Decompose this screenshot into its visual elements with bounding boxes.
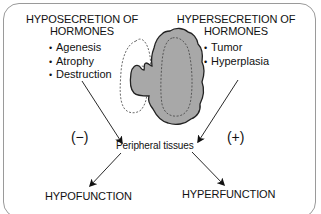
hypersecretion-heading-line2: HORMONES bbox=[175, 25, 297, 37]
hypersecretion-causes-list: Tumor Hyperplasia bbox=[204, 41, 269, 68]
peripheral-tissues-label: Peripheral tissues bbox=[116, 140, 194, 152]
hyposecretion-heading-line1: HYPOSECRETION OF bbox=[24, 13, 140, 25]
hyposecretion-heading-line2: HORMONES bbox=[24, 25, 140, 37]
hyposecretion-causes-list: Agenesis Atrophy Destruction bbox=[49, 41, 112, 82]
cause-atrophy: Atrophy bbox=[49, 55, 112, 69]
hypofunction-label: HYPOFUNCTION bbox=[45, 190, 132, 202]
cause-hyperplasia: Hyperplasia bbox=[204, 55, 269, 69]
negative-effect-sign: (−) bbox=[71, 130, 88, 144]
hypersecretion-heading-line1: HYPERSECRETION OF bbox=[175, 13, 297, 25]
hyposecretion-heading: HYPOSECRETION OF HORMONES bbox=[24, 13, 140, 37]
hypersecretion-heading: HYPERSECRETION OF HORMONES bbox=[175, 13, 297, 37]
positive-effect-sign: (+) bbox=[227, 130, 244, 144]
arrow-tissues-to-hyperfunction bbox=[192, 152, 224, 185]
cause-destruction: Destruction bbox=[49, 68, 112, 82]
arrow-tissues-to-hypofunction bbox=[90, 153, 121, 186]
hypertrophic-gland bbox=[130, 28, 203, 124]
cause-agenesis: Agenesis bbox=[49, 41, 112, 55]
hyperfunction-label: HYPERFUNCTION bbox=[182, 188, 275, 200]
cause-tumor: Tumor bbox=[204, 41, 269, 55]
